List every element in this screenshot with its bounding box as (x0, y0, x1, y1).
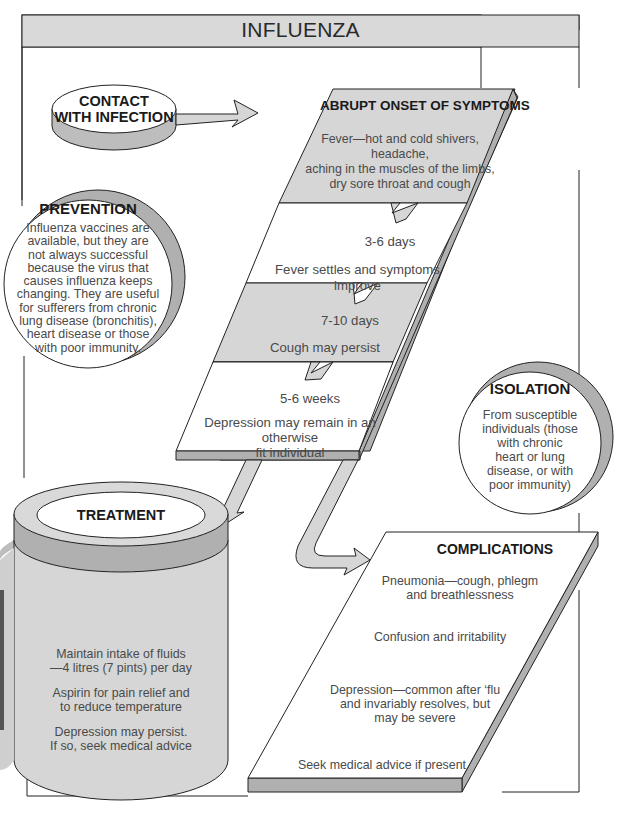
complications-line: may be severe (315, 711, 515, 725)
treatment-line: Depression may persist. (30, 725, 212, 739)
complications-line: Depression—common after ‘flu (315, 683, 515, 697)
arrow-curved-icon (296, 460, 370, 575)
isolation-heading: ISOLATION (478, 381, 582, 397)
isolation-line: poor immunity) (470, 478, 590, 492)
treatment-line: If so, seek medical advice (30, 739, 212, 753)
prevention-line: available, but they are (8, 235, 168, 248)
treatment-list: Maintain intake of fluids —4 litres (7 p… (30, 647, 212, 753)
isolation-line: disease, or with (470, 464, 590, 478)
stage-description: Fever settles and symptoms improve (250, 262, 465, 294)
onset-line: dry sore throat and cough (300, 177, 500, 192)
isolation-line: individuals (those (470, 422, 590, 436)
complications-item: Confusion and irritability (350, 630, 530, 644)
isolation-line: From susceptible (470, 408, 590, 422)
treatment-line: Aspirin for pain relief and (30, 686, 212, 700)
prevention-line: changing. They are useful (8, 288, 168, 301)
stage-description: Cough may persist (240, 340, 410, 356)
complications-item: Depression—common after ‘flu and invaria… (315, 683, 515, 725)
prevention-heading: PREVENTION (20, 201, 156, 217)
prevention-line: causes influenza keeps (8, 275, 168, 288)
stage-line: fit individual (180, 445, 400, 460)
prevention-line: for sufferers from chronic (8, 302, 168, 315)
stage-duration: 5-6 weeks (220, 391, 400, 407)
prevention-line: with poor immunity. (8, 342, 168, 355)
prevention-line: Influenza vaccines are (8, 222, 168, 235)
contact-line-1: CONTACT (52, 93, 176, 109)
complications-item: Pneumonia—cough, phlegm and breathlessne… (370, 574, 550, 602)
stage-description: Depression may remain in an otherwise fi… (180, 415, 400, 460)
isolation-description: From susceptible individuals (those with… (470, 408, 590, 492)
prevention-line: heart disease or those (8, 328, 168, 341)
prevention-description: Influenza vaccines are available, but th… (8, 222, 168, 355)
treatment-line: —4 litres (7 pints) per day (30, 661, 212, 675)
treatment-item: Maintain intake of fluids —4 litres (7 p… (30, 647, 212, 675)
onset-line: aching in the muscles of the limbs, (300, 162, 500, 177)
prevention-line: because the virus that (8, 262, 168, 275)
isolation-line: with chronic (470, 436, 590, 450)
treatment-line: Maintain intake of fluids (30, 647, 212, 661)
onset-line: Fever—hot and cold shivers, headache, (300, 132, 500, 162)
complications-item: Seek medical advice if present (282, 758, 482, 772)
treatment-item: Depression may persist. If so, seek medi… (30, 725, 212, 753)
stage-line: Depression may remain in an otherwise (180, 415, 400, 445)
isolation-line: heart or lung (470, 450, 590, 464)
arrow-right-icon (176, 100, 258, 127)
prevention-line: not always successful (8, 249, 168, 262)
page-title: INFLUENZA (22, 18, 579, 42)
complications-panel (248, 532, 598, 792)
onset-heading: ABRUPT ONSET OF SYMPTOMS (320, 98, 530, 114)
complications-line: and breathlessness (370, 588, 550, 602)
treatment-line: to reduce temperature (30, 700, 212, 714)
prevention-line: lung disease (bronchitis), (8, 315, 168, 328)
contact-line-2: WITH INFECTION (52, 109, 176, 125)
complications-heading: COMPLICATIONS (410, 541, 580, 557)
treatment-heading: TREATMENT (37, 507, 205, 523)
complications-line: Pneumonia—cough, phlegm (370, 574, 550, 588)
treatment-item: Aspirin for pain relief and to reduce te… (30, 686, 212, 714)
stage-duration: 3-6 days (300, 234, 480, 250)
onset-description: Fever—hot and cold shivers, headache, ac… (300, 132, 500, 192)
contact-heading: CONTACT WITH INFECTION (52, 93, 176, 125)
stage-duration: 7-10 days (260, 313, 440, 329)
complications-line: and invariably resolves, but (315, 697, 515, 711)
complications-line: Seek medical advice if present (282, 758, 482, 772)
complications-line: Confusion and irritability (350, 630, 530, 644)
